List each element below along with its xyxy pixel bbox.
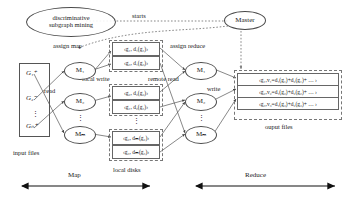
local-disk-cell-0-1: ‹g₃, d₁(g₃)› [112, 56, 160, 70]
master-node[interactable]: Master [224, 11, 266, 30]
local-disks-label: local disks [113, 167, 141, 174]
input-file-item-2: Gₙ⁺ [26, 123, 38, 130]
map-phase-label: Map [68, 172, 81, 179]
mapper-label-1: M₂ [76, 98, 85, 105]
reducer-label-1: M₂ [197, 98, 206, 105]
reducer-node-0[interactable]: M₁ [185, 62, 217, 80]
local-disk-cell-1-1: ‹g₁, d₂(g₁)› [112, 100, 160, 114]
input-file-item-1: G₂⁻ [26, 95, 38, 102]
reducer-label-2: Mₘ [196, 131, 206, 138]
local-disks-ellipsis: ⋮ [133, 118, 140, 125]
reducer-node-1[interactable]: M₂ [185, 93, 217, 111]
local-disk-cell-2-0: ‹g₂, dₘ(g₂)› [112, 131, 160, 145]
discriminative-subgraph-mining-node[interactable]: discriminative subgraph mining [26, 7, 116, 37]
diagram-canvas: Master (dotted 'starts') --> [0, 0, 345, 203]
mapper-node-2[interactable]: Mₘ [64, 126, 96, 144]
master-label: Master [235, 17, 254, 24]
reducer-label-0: M₁ [197, 67, 206, 74]
edge-label-write: write [207, 86, 220, 93]
mapper-node-0[interactable]: M₁ [64, 62, 96, 80]
input-file-item-0: G₁⁺ [26, 70, 38, 77]
local-disk-cell-1-0: ‹g₂, d₂(g₂)› [112, 86, 160, 100]
reducers-ellipsis: ⋮ [198, 115, 205, 122]
node-title-line2: subgraph mining [49, 22, 93, 29]
mappers-ellipsis: ⋮ [77, 115, 84, 122]
edge-label-assign-reduce: assign reduce [170, 43, 205, 50]
reduce-phase-label: Reduce [245, 172, 266, 179]
output-files-label: ouput files [265, 124, 293, 131]
input-files-label: input files [13, 150, 39, 157]
input-files-ellipsis: ⋮ [32, 111, 39, 118]
edge-label-assign-map: assign map [53, 43, 82, 50]
edge-label-starts: starts [132, 13, 146, 20]
mapper-label-2: Mₘ [75, 131, 85, 138]
local-disk-cell-2-1: ‹g₃, dₘ(g₃)› [112, 145, 160, 159]
output-file-row-2: ‹g₃,v₃=d₁(g₃)+d₂(g₃)+ … › [237, 97, 339, 110]
reducer-node-2[interactable]: Mₘ [185, 126, 217, 144]
mapper-label-0: M₁ [76, 67, 85, 74]
local-disk-cell-0-0: ‹g₁, d₁(g₁)› [112, 42, 160, 56]
mapper-node-1[interactable]: M₂ [64, 93, 96, 111]
edge-label-remote-read: remote read [148, 76, 179, 83]
